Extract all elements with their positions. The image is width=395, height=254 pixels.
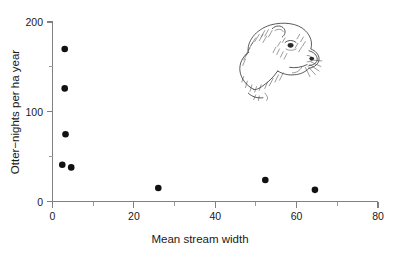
data-point [68, 164, 75, 171]
x-tick-label-80: 80 [372, 210, 384, 222]
x-tick-label-40: 40 [209, 210, 221, 222]
y-axis-title: Otter−nights per ha year [9, 50, 21, 175]
data-point [62, 131, 69, 138]
x-tick-label-60: 60 [291, 210, 303, 222]
otter-head-illustration [240, 23, 322, 100]
data-point [59, 161, 66, 168]
y-tick-label-100: 100 [25, 106, 43, 118]
data-point [312, 187, 319, 194]
x-tick-label-20: 20 [128, 210, 140, 222]
x-tick-label-0: 0 [50, 210, 56, 222]
plot-canvas: 0 100 200 0 20 40 60 80 Mean stream widt… [0, 0, 395, 254]
y-tick-label-200: 200 [25, 16, 43, 28]
scatter-plot-figure: 0 100 200 0 20 40 60 80 Mean stream widt… [0, 0, 395, 254]
x-axis-title: Mean stream width [151, 233, 248, 245]
data-points-group [59, 46, 318, 194]
data-point [61, 85, 68, 92]
data-point [262, 177, 269, 184]
data-point [155, 185, 162, 192]
data-point [61, 46, 68, 53]
y-tick-label-0: 0 [37, 196, 43, 208]
